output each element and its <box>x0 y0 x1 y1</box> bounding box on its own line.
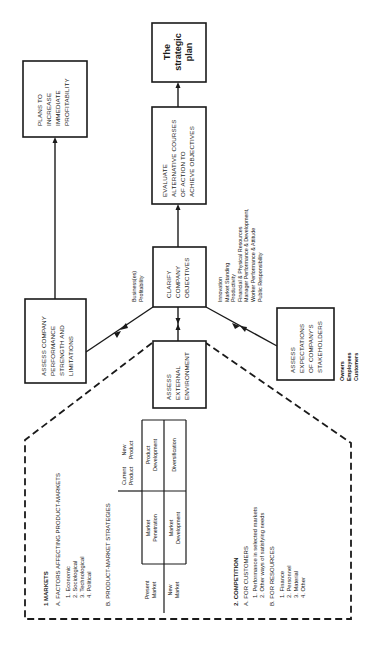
svg-text:1. Economic: 1. Economic <box>65 566 71 598</box>
svg-text:ASSESS COMPANY: ASSESS COMPANY <box>40 316 47 376</box>
svg-text:Present: Present <box>144 580 150 599</box>
svg-text:Business(es): Business(es) <box>131 271 137 302</box>
svg-text:2. Personnel: 2. Personnel <box>286 565 292 598</box>
arrowhead-icon <box>176 204 181 210</box>
svg-text:2. Sociological: 2. Sociological <box>72 561 78 598</box>
svg-text:Product: Product <box>128 466 134 485</box>
svg-text:IMMEDIATE: IMMEDIATE <box>54 90 61 126</box>
svg-text:New: New <box>121 445 127 456</box>
svg-text:PLANS TO: PLANS TO <box>36 94 43 126</box>
svg-text:Product: Product <box>145 445 151 464</box>
svg-text:New: New <box>167 585 173 596</box>
matrix-row-new-market: New Market <box>167 581 180 598</box>
svg-text:COMPANY: COMPANY <box>174 266 181 298</box>
svg-text:Market: Market <box>174 581 180 598</box>
svg-text:A. FACTORS AFFECTING PRODUC: A. FACTORS AFFECTING PRODUCT-MARKETS <box>55 473 61 606</box>
svg-text:Customers: Customers <box>353 353 359 381</box>
svg-text:ENVIRONMENT: ENVIRONMENT <box>183 352 190 400</box>
svg-text:LIMITATIONS: LIMITATIONS <box>67 336 74 376</box>
matrix-cell-diversification: Diversification <box>171 438 177 472</box>
svg-text:strategic: strategic <box>173 33 183 71</box>
svg-text:Financial & Physical Resources: Financial & Physical Resources <box>237 226 243 302</box>
svg-text:B. PRODUCT-MARKET STRATEGIES: B. PRODUCT-MARKET STRATEGIES <box>105 503 111 606</box>
svg-text:The: The <box>162 44 172 60</box>
svg-text:Development: Development <box>175 512 181 544</box>
svg-text:Market: Market <box>151 581 157 598</box>
svg-text:STAKEHOLDERS: STAKEHOLDERS <box>316 321 323 373</box>
svg-text:PROFITABILITY: PROFITABILITY <box>63 78 70 126</box>
connector-clarify-performance <box>86 307 153 352</box>
svg-text:2. COMPETITION: 2. COMPETITION <box>233 558 239 606</box>
arrowhead-icon <box>176 318 181 324</box>
svg-text:CLARIFY: CLARIFY <box>165 270 172 298</box>
svg-text:Manager Performance & Developm: Manager Performance & Development, <box>243 208 249 302</box>
svg-text:STRENGTH AND: STRENGTH AND <box>58 325 65 376</box>
svg-text:1 MARKETS: 1 MARKETS <box>43 571 49 606</box>
matrix-col-new-product: New Product <box>121 440 134 459</box>
svg-text:OF COMPANY'S: OF COMPANY'S <box>307 324 314 373</box>
competition-section: 2. COMPETITION A. FOR CUSTOMERS 1. Perfo… <box>233 507 306 606</box>
svg-text:Owners: Owners <box>339 361 345 381</box>
objectives-list: Innovation Market Standing Productivity … <box>217 208 263 302</box>
svg-text:Profitability: Profitability <box>138 275 144 302</box>
matrix-cell-market-development: Market Development <box>168 512 181 544</box>
svg-text:B. FOR RESOURCES: B. FOR RESOURCES <box>269 546 275 606</box>
svg-text:3. Technological: 3. Technological <box>79 557 85 598</box>
svg-text:ASSESS: ASSESS <box>165 374 172 400</box>
svg-text:ALTERNATIVE COURSES: ALTERNATIVE COURSES <box>170 120 177 198</box>
arrowhead-icon <box>176 82 181 88</box>
box-assess-stakeholders <box>277 308 334 380</box>
matrix-cell-product-development: Product Development <box>145 439 158 471</box>
svg-text:1. Finance: 1. Finance <box>279 571 285 598</box>
markets-section: 1 MARKETS A. FACTORS AFFECTING PRODUCT-M… <box>43 473 111 606</box>
svg-text:A. FOR CUSTOMERS: A. FOR CUSTOMERS <box>243 546 249 606</box>
svg-text:Current: Current <box>121 467 127 485</box>
svg-text:Worker Performance & Attitude: Worker Performance & Attitude <box>250 228 256 302</box>
svg-text:ACHIEVE OBJECTIVES: ACHIEVE OBJECTIVES <box>188 126 195 197</box>
svg-text:4. Political: 4. Political <box>86 572 92 598</box>
stakeholders-list: Owners Employees Customers <box>339 353 359 381</box>
matrix-cell-market-penetration: Market Penetration <box>145 514 158 542</box>
svg-text:Public Responsibility: Public Responsibility <box>257 252 263 302</box>
svg-text:Penetration: Penetration <box>152 514 158 542</box>
strategic-planning-diagram: The strategic plan EVALUATE ALTERNATIVE … <box>0 0 379 660</box>
svg-text:Innovation: Innovation <box>217 277 223 302</box>
svg-text:Market: Market <box>145 519 151 536</box>
svg-text:OBJECTIVES: OBJECTIVES <box>183 257 190 298</box>
svg-text:Product: Product <box>128 440 134 459</box>
svg-text:1. Performance in selected ma: 1. Performance in selected markets <box>252 507 258 598</box>
matrix-col-current-product: Current Product <box>121 466 134 485</box>
svg-text:Development: Development <box>152 439 158 471</box>
svg-text:OF ACTION TO: OF ACTION TO <box>179 151 186 197</box>
svg-text:Employees: Employees <box>346 353 352 381</box>
svg-text:Diversification: Diversification <box>171 438 177 472</box>
svg-text:Productivity: Productivity <box>230 274 236 302</box>
svg-text:INCREASE: INCREASE <box>45 93 52 126</box>
svg-text:EXPECTATIONS: EXPECTATIONS <box>298 324 305 373</box>
svg-text:ASSESS: ASSESS <box>289 347 296 373</box>
business-profitability-note: Business(es) Profitability <box>131 271 144 302</box>
arrowhead-icon <box>53 137 58 143</box>
matrix-row-present-market: Present Market <box>144 580 157 599</box>
svg-text:Market: Market <box>168 519 174 536</box>
arrowhead-icon <box>176 324 181 330</box>
svg-text:EXTERNAL: EXTERNAL <box>174 365 181 400</box>
arrowhead-icon <box>240 326 247 332</box>
svg-text:plan: plan <box>184 43 194 62</box>
svg-text:3. Material: 3. Material <box>293 571 299 598</box>
svg-text:Market Standing: Market Standing <box>224 263 230 302</box>
svg-text:PERFORMANCE: PERFORMANCE <box>49 326 56 376</box>
svg-text:EVALUATE: EVALUATE <box>161 164 168 197</box>
svg-text:2. Other ways of satisfying n: 2. Other ways of satisfying needs <box>259 513 265 598</box>
svg-text:4. Other: 4. Other <box>300 577 306 598</box>
